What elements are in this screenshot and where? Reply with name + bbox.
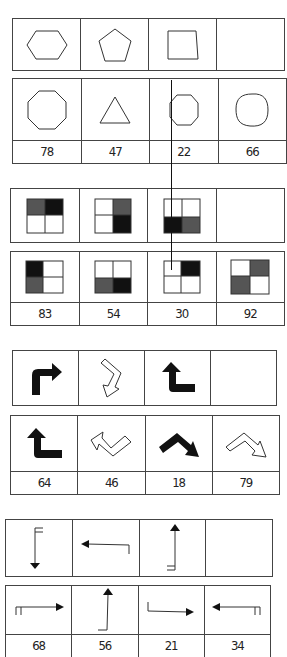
puzzle-2-sequence-row	[10, 188, 285, 243]
option-heptagon[interactable]	[150, 79, 219, 140]
arrow-left-tail-right-icon	[212, 603, 262, 617]
option-triangle[interactable]	[82, 79, 151, 140]
quadrant-square-icon	[163, 260, 201, 294]
sequence-cell-hexagon	[13, 19, 81, 70]
circle-icon	[234, 92, 270, 128]
option-arrow[interactable]	[11, 416, 78, 471]
puzzle-3-sequence-row	[12, 350, 277, 406]
quadrant-square-icon	[26, 198, 64, 234]
quadrant-square-icon	[230, 259, 270, 295]
option-code: 64	[11, 472, 78, 494]
quadrant-square-icon	[163, 198, 201, 234]
sequence-cell-pentagon	[81, 19, 149, 70]
arrow-down-tail-top-icon	[29, 526, 49, 570]
sequence-blank-cell[interactable]	[211, 351, 276, 405]
sequence-cell-line-arrow	[140, 520, 207, 576]
bent-arrow-up-left-icon	[159, 360, 197, 396]
sequence-cell-line-arrow	[6, 520, 73, 576]
arrow-right-tail-up-icon	[146, 601, 196, 619]
outline-arrow-down-left-icon	[97, 357, 127, 399]
option-code: 79	[213, 472, 279, 494]
option-code: 21	[139, 635, 205, 657]
arrow-left-tail-right-icon	[81, 540, 131, 556]
sequence-cell-arrow	[145, 351, 211, 405]
quadrant-square-icon	[94, 198, 132, 234]
option-code: 30	[148, 303, 217, 325]
arrow-up-tail-bottom-icon	[164, 524, 180, 572]
option-arrow[interactable]	[213, 416, 279, 471]
arrow-right-tail-left-icon	[14, 603, 64, 617]
puzzle-2-options: 83 54 30 92	[10, 251, 285, 326]
option-code: 22	[150, 141, 219, 163]
puzzle-1-options: 78 47 22 66	[12, 78, 287, 164]
puzzle-1-sequence-row	[12, 18, 285, 71]
puzzle-4-options: 68 56 21 34	[5, 585, 271, 657]
option-code: 34	[205, 635, 270, 657]
option-line-arrow[interactable]	[6, 586, 72, 634]
bent-arrow-down-right-icon	[157, 429, 201, 459]
pentagon-icon	[97, 27, 133, 63]
option-circle[interactable]	[219, 79, 287, 140]
option-code: 47	[82, 141, 151, 163]
option-line-arrow[interactable]	[72, 586, 138, 634]
triangle-icon	[98, 95, 132, 125]
option-octagon[interactable]	[13, 79, 82, 140]
option-arrow[interactable]	[78, 416, 145, 471]
bent-arrow-up-left-icon	[24, 426, 64, 462]
option-code: 92	[217, 303, 285, 325]
sequence-blank-cell[interactable]	[217, 19, 284, 70]
option-code: 56	[72, 635, 138, 657]
option-code: 46	[78, 472, 145, 494]
quadrant-square-icon	[25, 260, 65, 294]
sequence-cell-square	[149, 19, 217, 70]
square-icon	[166, 29, 200, 61]
option-code: 83	[11, 303, 80, 325]
option-quadrant[interactable]	[148, 252, 217, 302]
bent-arrow-up-right-icon	[28, 359, 64, 397]
stray-vertical-line	[171, 80, 172, 270]
option-code: 78	[13, 141, 82, 163]
quadrant-square-icon	[94, 260, 132, 294]
octagon-icon	[25, 89, 69, 131]
option-code: 66	[219, 141, 287, 163]
option-arrow[interactable]	[146, 416, 213, 471]
outline-arrow-right-hump-icon	[224, 429, 268, 459]
option-code: 54	[80, 303, 149, 325]
option-quadrant[interactable]	[11, 252, 80, 302]
arrow-up-tail-left-icon	[94, 588, 116, 632]
option-quadrant[interactable]	[217, 252, 285, 302]
sequence-cell-arrow	[13, 351, 79, 405]
option-code: 18	[146, 472, 213, 494]
sequence-blank-cell[interactable]	[217, 189, 285, 242]
puzzle-4-sequence-row	[5, 519, 273, 577]
sequence-blank-cell[interactable]	[206, 520, 272, 576]
hexagon-icon	[25, 29, 69, 61]
sequence-cell-arrow	[79, 351, 145, 405]
option-line-arrow[interactable]	[205, 586, 270, 634]
option-quadrant[interactable]	[80, 252, 149, 302]
option-code: 68	[6, 635, 72, 657]
sequence-cell-quadrant	[148, 189, 217, 242]
puzzle-3-options: 64 46 18 79	[10, 415, 280, 495]
option-line-arrow[interactable]	[139, 586, 205, 634]
sequence-cell-quadrant	[80, 189, 149, 242]
sequence-cell-quadrant	[11, 189, 80, 242]
outline-arrow-left-v-icon	[89, 430, 133, 458]
sequence-cell-line-arrow	[73, 520, 140, 576]
